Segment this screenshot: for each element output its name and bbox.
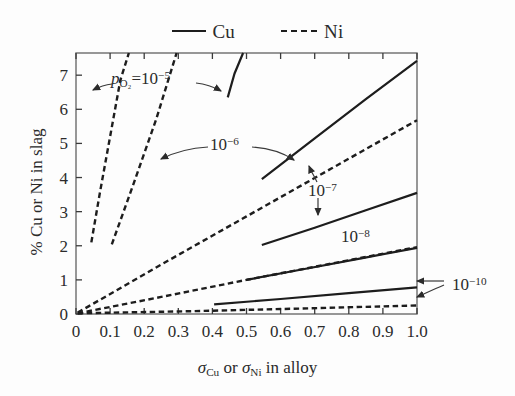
curve-ni-1e-7 <box>78 120 417 312</box>
annotation-1e-8-base: 10 <box>341 227 358 246</box>
x-tick-label: 0.4 <box>202 323 223 340</box>
annotation-po2-subscript: O₂ <box>120 77 132 89</box>
y-tick-label: 1 <box>46 271 68 288</box>
annotation-1e-6-base: 10 <box>210 135 227 154</box>
y-tick-label: 7 <box>46 67 68 84</box>
annotation-1e-6-exponent: −6 <box>227 135 239 147</box>
x-tick-label: 1.0 <box>406 323 427 340</box>
y-axis-title: % Cu or Ni in slag <box>27 72 47 312</box>
leader-po2-left <box>93 84 112 90</box>
x-tick-label: 0.6 <box>270 323 291 340</box>
annotation-po2-eq: =10 <box>132 69 159 88</box>
x-title-sub-cu: Cu <box>206 366 219 378</box>
x-axis-title: σCu or σNi in alloy <box>0 358 515 378</box>
x-title-sub-ni: Ni <box>250 366 261 378</box>
leader-1e10-lower <box>417 285 444 297</box>
y-tick-label: 5 <box>46 135 68 152</box>
annotation-1e-10: 10−10 <box>452 276 487 293</box>
annotation-1e-8: 10−8 <box>341 228 370 245</box>
chart-figure: Cu Ni 00.10.20.30.40.50.60.70.80.91.0012… <box>0 0 515 396</box>
data-curves <box>78 53 417 313</box>
x-tick-label: 0.1 <box>99 323 120 340</box>
x-tick-label: 0.5 <box>236 323 257 340</box>
x-tick-label: 0.3 <box>168 323 189 340</box>
y-tick-label: 0 <box>46 306 68 323</box>
annotation-po2-1e-5: pO₂=10−5 <box>111 70 170 89</box>
curve-cu-1e-6 <box>262 61 417 179</box>
annotation-po2-exponent: −5 <box>158 69 170 81</box>
curve-ni-1e-10 <box>78 305 417 313</box>
leader-po2-right <box>196 83 221 91</box>
annotation-1e-6: 10−6 <box>210 136 239 153</box>
x-tick-label: 0.9 <box>372 323 393 340</box>
y-tick-label: 6 <box>46 101 68 118</box>
annotation-po2-symbol: p <box>111 69 120 88</box>
annotation-1e-7: 10−7 <box>308 182 337 199</box>
y-tick-label: 3 <box>46 203 68 220</box>
curve-cu-1e-5 <box>228 53 243 97</box>
annotation-1e-10-base: 10 <box>452 275 469 294</box>
y-tick-label: 2 <box>46 237 68 254</box>
x-tick-label: 0 <box>72 323 81 340</box>
annotation-leaders <box>93 83 444 297</box>
x-title-tail: in alloy <box>262 358 318 377</box>
x-tick-label: 0.8 <box>338 323 359 340</box>
y-axis-ticks <box>76 75 82 314</box>
annotation-1e-7-base: 10 <box>308 181 325 200</box>
x-title-sigma-1: σ <box>198 358 206 377</box>
curve-cu-1e-7 <box>262 193 417 245</box>
annotation-1e-7-exponent: −7 <box>325 181 337 193</box>
annotation-1e-10-exponent: −10 <box>469 275 487 287</box>
plot-frame <box>76 53 417 314</box>
annotation-1e-8-exponent: −8 <box>358 227 370 239</box>
leader-1e6-left <box>161 147 208 159</box>
x-tick-label: 0.7 <box>304 323 325 340</box>
y-tick-label: 4 <box>46 169 68 186</box>
curve-cu-1e-8 <box>247 248 418 280</box>
curve-cu-1e-10 <box>214 287 417 304</box>
x-title-or: or <box>219 358 242 377</box>
x-tick-label: 0.2 <box>134 323 155 340</box>
